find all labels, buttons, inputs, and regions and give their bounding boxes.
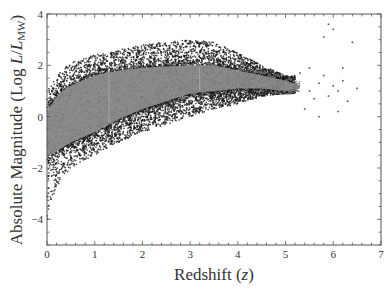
x-axis-tick-labels: 01234567 (44, 248, 384, 260)
y-tick-label: −4 (31, 213, 43, 225)
x-tick-label: 7 (378, 248, 384, 260)
y-axis-tick-labels: 420−2−4 (31, 8, 43, 225)
y-tick-label: 4 (38, 8, 44, 20)
x-tick-label: 3 (187, 248, 193, 260)
x-tick-label: 5 (283, 248, 289, 260)
x-tick-label: 6 (331, 248, 337, 260)
x-tick-label: 2 (140, 248, 146, 260)
scatter-chart: 01234567 420−2−4 Redshift (z) Absolute M… (0, 0, 388, 289)
plot-area (46, 23, 358, 219)
x-axis-title: Redshift (z) (174, 265, 254, 284)
x-tick-label: 1 (92, 248, 98, 260)
x-tick-label: 0 (44, 248, 50, 260)
y-tick-label: −2 (31, 162, 43, 174)
y-tick-label: 0 (38, 111, 44, 123)
y-axis-title: Absolute Magnitude (Log L/LMW) (7, 15, 27, 245)
y-tick-label: 2 (38, 59, 44, 71)
x-tick-label: 4 (235, 248, 241, 260)
